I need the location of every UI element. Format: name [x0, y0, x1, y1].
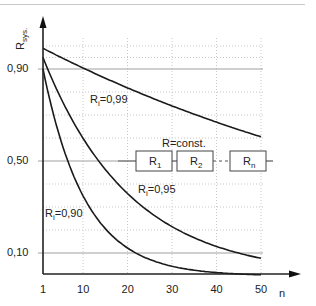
x-tick-label: 40	[211, 284, 223, 295]
series-label: Ri=0,95	[138, 184, 176, 195]
y-tick-label: 0,50	[7, 155, 28, 166]
series-label: Ri=0,90	[45, 208, 83, 219]
y-axis-label: Rsys.	[14, 28, 26, 50]
x-axis-arrow-icon	[289, 271, 301, 278]
series-label: Ri=0,99	[90, 94, 128, 105]
diagram-title: R=const.	[162, 138, 206, 149]
y-axis-label-sub: sys.	[20, 28, 29, 42]
x-axis-label: n	[279, 288, 285, 299]
curve-0.9	[43, 69, 261, 275]
reliability-chart: R1R2Rn	[0, 0, 316, 306]
y-tick-label: 0,10	[7, 247, 28, 258]
y-tick-label: 0,90	[7, 63, 28, 74]
x-tick-label: 50	[255, 284, 267, 295]
curve-0.99	[43, 48, 261, 137]
x-tick-label: 30	[166, 284, 178, 295]
x-tick-label: 20	[122, 284, 134, 295]
x-tick-label: 10	[77, 284, 89, 295]
y-axis-arrow-icon	[40, 16, 47, 28]
x-tick-label: 1	[40, 284, 46, 295]
series-block-diagram: R1R2Rn	[118, 151, 273, 171]
